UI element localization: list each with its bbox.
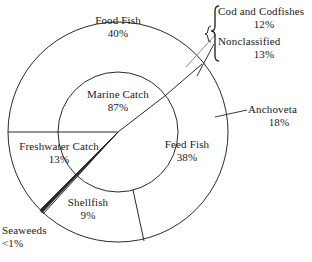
anchoveta-leader-line: [215, 110, 247, 117]
callout-label-nonclassified-name: Nonclassified: [218, 35, 310, 48]
callout-label-anchoveta-value: 18%: [248, 116, 310, 129]
slice-label-seaweeds-name: Seaweeds: [2, 224, 64, 237]
slice-label-feed-fish-value: 38%: [150, 151, 224, 164]
slice-label-feed-fish-name: Feed Fish: [150, 138, 224, 151]
callout-pointer-brace: [205, 26, 211, 42]
nonclassified-leader-line: [197, 44, 214, 76]
slice-label-feed-fish: Feed Fish 38%: [150, 138, 224, 164]
slice-label-freshwater-catch-name: Freshwater Catch: [6, 140, 112, 153]
slice-label-seaweeds-value: <1%: [2, 237, 64, 250]
slice-label-marine-catch-name: Marine Catch: [63, 88, 173, 101]
callout-label-anchoveta-name: Anchoveta: [248, 103, 310, 116]
slice-label-shellfish-value: 9%: [52, 209, 124, 222]
callout-label-cod-value: 12%: [218, 18, 310, 31]
outer-divider-shellfish-feedfish: [133, 190, 144, 241]
nested-pie-chart: Food Fish 40% Marine Catch 87% Feed Fish…: [0, 0, 312, 262]
slice-label-marine-catch-value: 87%: [63, 101, 173, 114]
callout-label-nonclassified-value: 13%: [218, 48, 310, 61]
slice-label-food-fish-value: 40%: [63, 27, 173, 40]
cod-leader-line: [186, 34, 216, 67]
slice-label-freshwater-catch: Freshwater Catch 13%: [6, 140, 112, 166]
slice-label-freshwater-catch-value: 13%: [6, 153, 112, 166]
slice-label-shellfish: Shellfish 9%: [52, 196, 124, 222]
callout-label-cod-and-codfishes: Cod and Codfishes 12%: [218, 5, 310, 31]
slice-label-shellfish-name: Shellfish: [52, 196, 124, 209]
slice-label-food-fish-name: Food Fish: [63, 14, 173, 27]
slice-label-food-fish: Food Fish 40%: [63, 14, 173, 40]
callout-label-nonclassified: Nonclassified 13%: [218, 35, 310, 61]
slice-label-marine-catch: Marine Catch 87%: [63, 88, 173, 114]
callout-label-cod-name: Cod and Codfishes: [218, 5, 310, 18]
slice-label-seaweeds: Seaweeds <1%: [2, 224, 64, 250]
callout-label-anchoveta: Anchoveta 18%: [248, 103, 310, 129]
